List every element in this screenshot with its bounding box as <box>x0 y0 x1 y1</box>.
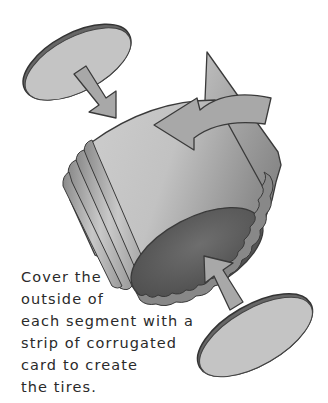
caption-line: outside of <box>21 288 194 310</box>
instruction-caption: Cover the outside of each segment with a… <box>21 266 194 398</box>
caption-line: strip of corrugated <box>21 332 194 354</box>
caption-line: Cover the <box>21 266 194 288</box>
caption-line: the tires. <box>21 376 194 398</box>
top-wheel-disc <box>11 9 142 116</box>
caption-line: card to create <box>21 354 194 376</box>
caption-line: each segment with a <box>21 310 194 332</box>
